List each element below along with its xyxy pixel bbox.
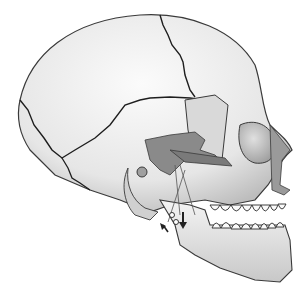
lower-teeth [212, 223, 284, 230]
ear-canal [137, 167, 147, 177]
cranium [18, 15, 292, 212]
upper-teeth [210, 204, 286, 211]
skull-illustration [0, 0, 306, 293]
skull-drawing [0, 0, 306, 293]
